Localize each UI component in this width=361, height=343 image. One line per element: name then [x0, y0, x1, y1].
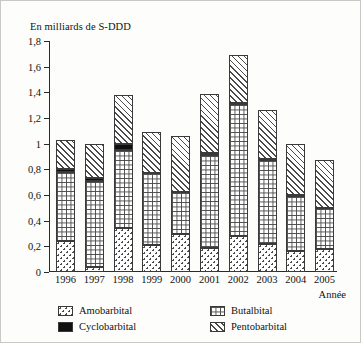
- legend-label: Cyclobarbital: [79, 321, 136, 332]
- legend-label: Pentobarbital: [231, 321, 287, 332]
- y-tick-label: 1,6: [15, 61, 41, 72]
- bar-segment-pentobarbital[interactable]: [315, 160, 334, 207]
- legend-swatch-pentobarbital: [210, 322, 225, 332]
- chart-figure: En milliards de S-DDD 00,20,40,60,811,21…: [0, 0, 361, 343]
- bar-column[interactable]: [142, 41, 161, 272]
- y-tick-label: 0,8: [15, 164, 41, 175]
- legend-item-butalbital[interactable]: Butalbital: [210, 305, 272, 316]
- bar-segment-amobarbital[interactable]: [171, 234, 190, 273]
- bar-segment-pentobarbital[interactable]: [56, 140, 75, 170]
- bar-segment-amobarbital[interactable]: [85, 267, 104, 272]
- bar-column[interactable]: [200, 41, 219, 272]
- bar-segment-butalbital[interactable]: [142, 173, 161, 245]
- legend-item-amobarbital[interactable]: Amobarbital: [58, 305, 132, 316]
- bar-column[interactable]: [258, 41, 277, 272]
- y-tick-mark: [44, 272, 49, 273]
- bar-segment-pentobarbital[interactable]: [286, 144, 305, 195]
- legend-swatch-butalbital: [210, 306, 225, 316]
- bar-segment-butalbital[interactable]: [56, 172, 75, 241]
- bar-column[interactable]: [315, 41, 334, 272]
- bar-segment-butalbital[interactable]: [315, 208, 334, 249]
- plot-area: 00,20,40,60,811,21,41,61,8: [49, 41, 337, 272]
- bar-segment-amobarbital[interactable]: [56, 241, 75, 272]
- y-tick-label: 1,8: [15, 36, 41, 47]
- bar-segment-cyclobarbital[interactable]: [85, 178, 104, 181]
- bar-segment-pentobarbital[interactable]: [85, 144, 104, 179]
- bar-segment-amobarbital[interactable]: [142, 245, 161, 272]
- bar-segment-cyclobarbital[interactable]: [200, 153, 219, 156]
- chart-legend: AmobarbitalCyclobarbitalButalbitalPentob…: [58, 305, 338, 337]
- x-tick-label-group: 1996199719981999200020012002200320042005: [49, 274, 337, 290]
- y-tick-label: 0: [15, 267, 41, 278]
- bar-segment-amobarbital[interactable]: [258, 244, 277, 272]
- legend-item-cyclobarbital[interactable]: Cyclobarbital: [58, 321, 136, 332]
- bar-segment-amobarbital[interactable]: [200, 248, 219, 272]
- legend-swatch-cyclobarbital: [58, 322, 73, 332]
- bar-segment-pentobarbital[interactable]: [258, 110, 277, 159]
- bar-segment-butalbital[interactable]: [114, 150, 133, 228]
- bar-segment-pentobarbital[interactable]: [114, 95, 133, 144]
- bar-segment-butalbital[interactable]: [200, 155, 219, 247]
- y-axis-title: En milliards de S-DDD: [30, 21, 131, 32]
- y-tick-label: 1,2: [15, 113, 41, 124]
- bar-segment-butalbital[interactable]: [229, 104, 248, 236]
- y-tick-label: 0,6: [15, 190, 41, 201]
- bar-column[interactable]: [56, 41, 75, 272]
- x-tick-label: 2005: [308, 274, 342, 285]
- legend-label: Butalbital: [231, 305, 272, 316]
- bar-segment-pentobarbital[interactable]: [142, 132, 161, 173]
- bar-segment-pentobarbital[interactable]: [229, 55, 248, 102]
- legend-label: Amobarbital: [79, 305, 132, 316]
- bar-segment-amobarbital[interactable]: [114, 228, 133, 272]
- bar-segment-butalbital[interactable]: [171, 192, 190, 233]
- bar-column[interactable]: [171, 41, 190, 272]
- bar-segment-butalbital[interactable]: [85, 181, 104, 267]
- bar-segment-pentobarbital[interactable]: [200, 94, 219, 153]
- bar-column[interactable]: [229, 41, 248, 272]
- y-tick-label: 0,2: [15, 241, 41, 252]
- x-axis-title: Année: [319, 289, 346, 300]
- legend-item-pentobarbital[interactable]: Pentobarbital: [210, 321, 287, 332]
- bar-group: [49, 41, 337, 272]
- bar-segment-butalbital[interactable]: [286, 196, 305, 251]
- bar-column[interactable]: [286, 41, 305, 272]
- bar-segment-pentobarbital[interactable]: [171, 136, 190, 192]
- legend-swatch-amobarbital: [58, 306, 73, 316]
- bar-segment-butalbital[interactable]: [258, 160, 277, 243]
- y-tick-label: 1: [15, 138, 41, 149]
- bar-segment-amobarbital[interactable]: [286, 251, 305, 272]
- bar-segment-cyclobarbital[interactable]: [114, 144, 133, 150]
- bar-segment-cyclobarbital[interactable]: [56, 169, 75, 172]
- y-tick-label: 0,4: [15, 215, 41, 226]
- bar-segment-amobarbital[interactable]: [229, 236, 248, 272]
- y-tick-label: 1,4: [15, 87, 41, 98]
- bar-column[interactable]: [85, 41, 104, 272]
- bar-segment-amobarbital[interactable]: [315, 249, 334, 272]
- bar-column[interactable]: [114, 41, 133, 272]
